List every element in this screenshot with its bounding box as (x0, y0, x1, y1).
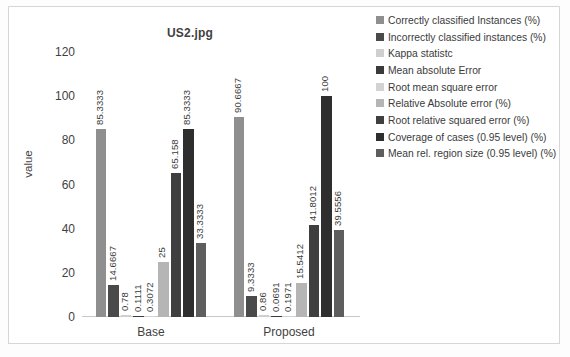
legend-item-label: Coverage of cases (0.95 level) (%) (388, 131, 562, 144)
bar-wrap: 85.3333 (96, 52, 106, 317)
legend-item-label: Mean absolute Error (388, 64, 562, 77)
bar-wrap: 65.158 (171, 52, 181, 317)
bar-value-label: 0.86 (257, 292, 268, 311)
legend-swatch-icon (376, 33, 384, 41)
legend-item-label: Incorrectly classified instances (%) (388, 31, 562, 44)
y-tick-100: 100 (55, 89, 75, 103)
bar-wrap: 15.5412 (296, 52, 306, 317)
bar-wrap: 14.6667 (108, 52, 118, 317)
bar-value-label: 0.3072 (144, 283, 155, 313)
legend-item[interactable]: Root mean square error (376, 81, 562, 94)
bar-group-base: 85.333314.66670.780.11110.30722565.15885… (96, 52, 206, 317)
bar-value-label: 39.5556 (332, 191, 343, 226)
legend-swatch-icon (376, 116, 384, 124)
legend-item-label: Correctly classified Instances (%) (388, 14, 562, 27)
bar-wrap: 33.3333 (196, 52, 206, 317)
legend-item[interactable]: Mean absolute Error (376, 64, 562, 77)
bar-value-label: 41.8012 (307, 186, 318, 221)
bars: 85.333314.66670.780.11110.30722565.15885… (96, 52, 206, 317)
bar-value-label: 85.3333 (181, 90, 192, 125)
bar-wrap: 41.8012 (309, 52, 319, 317)
bar-wrap: 0.0691 (271, 52, 281, 317)
legend-swatch-icon (376, 16, 384, 24)
chart-title: US2.jpg (10, 26, 370, 40)
bar-wrap: 0.1971 (284, 52, 294, 317)
bar-wrap: 0.3072 (146, 52, 156, 317)
y-axis-label: value (22, 124, 34, 204)
bar[interactable] (171, 173, 181, 317)
legend-swatch-icon (376, 149, 384, 157)
y-tick-0: 0 (68, 310, 75, 324)
legend-swatch-icon (376, 66, 384, 74)
bar[interactable] (259, 315, 269, 317)
legend-item[interactable]: Mean rel. region size (0.95 level) (%) (376, 147, 562, 160)
bar-value-label: 0.0691 (270, 283, 281, 313)
chart-legend: Correctly classified Instances (%)Incorr… (376, 14, 562, 164)
bar-value-label: 0.78 (119, 292, 130, 311)
legend-item[interactable]: Coverage of cases (0.95 level) (%) (376, 131, 562, 144)
legend-item-label: Root relative squared error (%) (388, 114, 562, 127)
legend-swatch-icon (376, 99, 384, 107)
bar-value-label: 14.6667 (107, 246, 118, 281)
bar-value-label: 90.6667 (232, 78, 243, 113)
legend-item-label: Relative Absolute error (%) (388, 97, 562, 110)
y-tick-20: 20 (62, 266, 75, 280)
bar-value-label: 0.1111 (132, 285, 143, 313)
bar[interactable] (121, 315, 131, 317)
bar-wrap: 85.3333 (183, 52, 193, 317)
bar[interactable] (296, 283, 306, 317)
legend-item-label: Root mean square error (388, 81, 562, 94)
bar-value-label: 0.1971 (282, 283, 293, 313)
legend-item-label: Kappa statistc (388, 47, 562, 60)
bar-wrap: 0.78 (121, 52, 131, 317)
plot-area: 020406080100120 85.333314.66670.780.1111… (82, 52, 360, 317)
bar[interactable] (158, 262, 168, 317)
bar-value-label: 100 (319, 76, 330, 92)
legend-item[interactable]: Correctly classified Instances (%) (376, 14, 562, 27)
bar[interactable] (234, 117, 244, 317)
bar-value-label: 9.3333 (245, 263, 256, 293)
chart-screenshot: US2.jpg value 020406080100120 85.333314.… (0, 0, 570, 357)
bar-wrap: 100 (321, 52, 331, 317)
y-tick-60: 60 (62, 178, 75, 192)
bar[interactable] (246, 296, 256, 317)
chart-panel: US2.jpg value 020406080100120 85.333314.… (10, 8, 370, 348)
bar[interactable] (96, 129, 106, 317)
bar-value-label: 15.5412 (294, 244, 305, 279)
legend-swatch-icon (376, 49, 384, 57)
bar[interactable] (309, 225, 319, 317)
bar-wrap: 9.3333 (246, 52, 256, 317)
bar-group-proposed: 90.66679.33330.860.06910.197115.541241.8… (234, 52, 344, 317)
legend-item[interactable]: Root relative squared error (%) (376, 114, 562, 127)
legend-item[interactable]: Kappa statistc (376, 47, 562, 60)
legend-item-label: Mean rel. region size (0.95 level) (%) (388, 147, 562, 160)
bar[interactable] (284, 316, 294, 317)
bar-value-label: 65.158 (169, 139, 180, 169)
bar-value-label: 33.3333 (194, 204, 205, 239)
legend-swatch-icon (376, 83, 384, 91)
y-tick-40: 40 (62, 222, 75, 236)
legend-swatch-icon (376, 133, 384, 141)
bars: 90.66679.33330.860.06910.197115.541241.8… (234, 52, 344, 317)
bar-wrap: 0.1111 (133, 52, 143, 317)
bar[interactable] (334, 230, 344, 317)
bar-wrap: 25 (158, 52, 168, 317)
y-tick-120: 120 (55, 45, 75, 59)
category-label-proposed: Proposed (234, 325, 344, 339)
bar-value-label: 25 (156, 247, 167, 258)
bar[interactable] (196, 243, 206, 317)
bar[interactable] (146, 316, 156, 317)
bar[interactable] (183, 129, 193, 317)
legend-item[interactable]: Relative Absolute error (%) (376, 97, 562, 110)
legend-item[interactable]: Incorrectly classified instances (%) (376, 31, 562, 44)
bar-wrap: 0.86 (259, 52, 269, 317)
bar-wrap: 90.6667 (234, 52, 244, 317)
y-tick-80: 80 (62, 133, 75, 147)
bar-wrap: 39.5556 (334, 52, 344, 317)
bar-value-label: 85.3333 (94, 90, 105, 125)
bar[interactable] (321, 96, 331, 317)
bar[interactable] (108, 285, 118, 317)
category-label-base: Base (96, 325, 206, 339)
bar[interactable] (271, 316, 281, 317)
bar[interactable] (133, 316, 143, 317)
